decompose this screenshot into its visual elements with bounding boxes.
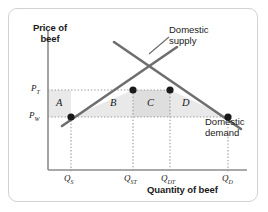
marker-qs-pw: [67, 113, 74, 120]
y-axis-title-line1: Price of: [33, 22, 67, 33]
quantity-tick-qs-sub: S: [71, 179, 74, 185]
supply-label-leader-line: [149, 37, 169, 54]
price-tick-world-sub: W: [35, 116, 40, 122]
region-label-d: D: [182, 97, 190, 108]
price-tick-tariff: PT: [31, 83, 40, 95]
price-tick-world: PW: [29, 110, 40, 122]
region-label-b: B: [110, 97, 116, 108]
domestic-supply-label-line1: Domestic: [169, 24, 209, 35]
domestic-supply-label-line2: supply: [169, 35, 196, 46]
quantity-tick-qd: QD: [222, 173, 233, 185]
figure-frame: Price of beef Quantity of beef PT PW QS …: [8, 8, 258, 202]
quantity-tick-qst-sub: ST: [131, 179, 137, 185]
quantity-tick-qd-sub: D: [229, 179, 233, 185]
y-axis-title-line2: beef: [40, 33, 59, 44]
x-axis-title: Quantity of beef: [147, 185, 218, 196]
quantity-tick-qst: QST: [124, 173, 137, 185]
domestic-demand-label-line1: Domestic: [205, 116, 245, 127]
region-label-c: C: [147, 97, 154, 108]
quantity-tick-qs: QS: [64, 173, 74, 185]
quantity-tick-qdt-sub: DT: [168, 179, 176, 185]
marker-qst-pt: [129, 86, 136, 93]
y-axis-title: Price of beef: [24, 23, 76, 44]
price-tick-tariff-sub: T: [37, 89, 40, 95]
domestic-demand-label-line2: demand: [205, 127, 239, 138]
domestic-supply-label: Domestic supply: [169, 25, 209, 46]
marker-qdt-pt: [166, 86, 173, 93]
region-label-a: A: [56, 97, 62, 108]
quantity-tick-qdt: QDT: [161, 173, 175, 185]
domestic-demand-label: Domestic demand: [205, 117, 245, 138]
